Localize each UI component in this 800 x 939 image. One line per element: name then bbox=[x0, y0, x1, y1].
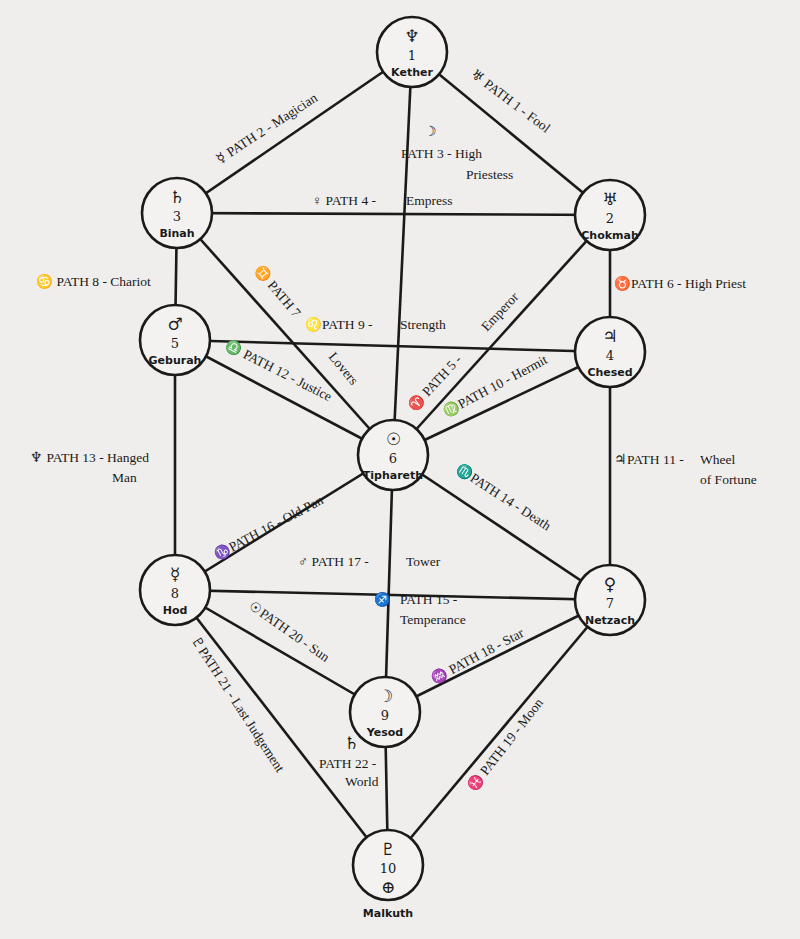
planet-symbol-icon: ♂ bbox=[167, 314, 182, 334]
path-21-label: ♇PATH 21 - Last Judgement bbox=[188, 633, 287, 775]
path-line-3 bbox=[393, 52, 412, 455]
planet-symbol-icon: ☽ bbox=[378, 686, 393, 706]
sephirah-hod: ☿8Hod bbox=[140, 555, 210, 625]
node-number: 10 bbox=[380, 861, 397, 876]
node-number: 8 bbox=[171, 586, 179, 601]
path-line-4 bbox=[177, 213, 610, 215]
node-name: Tiphareth bbox=[363, 469, 423, 482]
path-3-label-2: Priestess bbox=[466, 167, 513, 182]
path-4-label-2: Empress bbox=[406, 193, 453, 208]
planet-symbol-icon: ♆ bbox=[404, 26, 419, 46]
path-20-label: ☉PATH 20 - Sun bbox=[246, 598, 332, 665]
node-number: 2 bbox=[606, 211, 614, 226]
path-1-label: ♅ PATH 1 - Fool bbox=[468, 66, 553, 135]
node-number: 6 bbox=[389, 451, 397, 466]
path-3-symbol: ☽ bbox=[424, 124, 437, 139]
path-13-label: ♆ PATH 13 - Hanged bbox=[30, 450, 149, 465]
path-line-2 bbox=[177, 52, 412, 213]
path-17-label-2: Tower bbox=[406, 554, 441, 569]
path-22-label-2: World bbox=[345, 774, 379, 789]
planet-symbol-icon: ♇ bbox=[380, 839, 395, 859]
path-9-label: ♌PATH 9 - bbox=[305, 316, 373, 332]
node-name: Yesod bbox=[366, 726, 403, 739]
sephirah-chesed: ♃4Chesed bbox=[575, 317, 645, 387]
path-11-label-2: Wheel bbox=[700, 452, 735, 467]
planet-symbol-icon: ♀ bbox=[604, 574, 616, 594]
path-3-label: PATH 3 - High bbox=[401, 146, 482, 161]
path-line-14 bbox=[393, 455, 610, 600]
sephirah-kether: ♆1Kether bbox=[377, 17, 447, 87]
path-22-symbol: ♄ bbox=[344, 734, 359, 753]
path-13-label-2: Man bbox=[112, 470, 137, 485]
node-name: Chokmah bbox=[581, 229, 639, 242]
path-15-label-2: Temperance bbox=[400, 612, 466, 627]
path-17-label: ♂ PATH 17 - bbox=[298, 554, 369, 569]
sephirah-malkuth: ♇10⊕Malkuth bbox=[353, 830, 423, 920]
path-9-label-2: Strength bbox=[400, 317, 446, 332]
sephirah-geburah: ♂5Geburah bbox=[140, 305, 210, 375]
node-number: 3 bbox=[173, 209, 181, 224]
node-name: Netzach bbox=[585, 614, 635, 627]
tree-of-life-diagram: ♅ PATH 1 - Fool ☿ PATH 2 - Magician ☽ PA… bbox=[0, 0, 800, 939]
sephirah-netzach: ♀7Netzach bbox=[575, 565, 645, 635]
node-name: Geburah bbox=[149, 354, 202, 367]
path-7-label: ♊ PATH 7 bbox=[252, 262, 305, 321]
sephirah-binah: ♄3Binah bbox=[142, 178, 212, 248]
node-number: 9 bbox=[381, 708, 389, 723]
node-number: 5 bbox=[171, 336, 179, 351]
earth-symbol-icon: ⊕ bbox=[381, 877, 395, 897]
path-line-15 bbox=[385, 455, 393, 712]
node-number: 1 bbox=[408, 48, 416, 63]
path-line-12 bbox=[175, 340, 393, 455]
path-18-label: ♒ PATH 18 - Star bbox=[428, 624, 527, 687]
sephirah-tiphareth: ☉6Tiphareth bbox=[358, 420, 428, 490]
path-line-17 bbox=[175, 590, 610, 600]
path-11-label-3: of Fortune bbox=[700, 472, 757, 487]
node-name: Hod bbox=[163, 604, 188, 617]
planet-symbol-icon: ☿ bbox=[170, 564, 180, 584]
path-2-label: ☿ PATH 2 - Magician bbox=[213, 90, 320, 167]
planet-symbol-icon: ☉ bbox=[386, 429, 401, 449]
node-name: Chesed bbox=[587, 366, 632, 379]
planet-symbol-icon: ♃ bbox=[602, 326, 617, 346]
node-number: 4 bbox=[606, 348, 614, 363]
path-6-label: ♉PATH 6 - High Priest bbox=[614, 275, 746, 291]
path-16-label: ♑PATH 16 - Old Pan bbox=[211, 491, 326, 562]
path-22-label: PATH 22 - bbox=[319, 756, 377, 771]
path-14-label: ♏PATH 14 - Death bbox=[453, 460, 554, 533]
planet-symbol-icon: ♄ bbox=[169, 187, 184, 207]
path-15-symbol: ♐ bbox=[374, 591, 391, 607]
node-name: Kether bbox=[391, 66, 433, 79]
path-line-5 bbox=[393, 215, 610, 455]
node-number: 7 bbox=[606, 596, 614, 611]
path-15-label: PATH 15 - bbox=[400, 592, 458, 607]
sephirah-chokmah: ♅2Chokmah bbox=[575, 180, 645, 250]
path-7-label-2: Lovers bbox=[326, 349, 362, 387]
sephirah-yesod: ☽9Yesod bbox=[350, 677, 420, 747]
path-19-label: ♓ PATH 19 - Moon bbox=[464, 695, 546, 794]
node-name: Binah bbox=[159, 227, 194, 240]
planet-symbol-icon: ♅ bbox=[602, 189, 617, 209]
path-11-label: ♃PATH 11 - bbox=[614, 452, 684, 467]
node-name: Malkuth bbox=[363, 907, 413, 920]
path-4-label: ♀ PATH 4 - bbox=[312, 193, 377, 208]
path-5-label-2: Emperor bbox=[478, 289, 522, 334]
path-line-1 bbox=[412, 52, 610, 215]
path-8-label: ♋ PATH 8 - Chariot bbox=[36, 273, 151, 289]
